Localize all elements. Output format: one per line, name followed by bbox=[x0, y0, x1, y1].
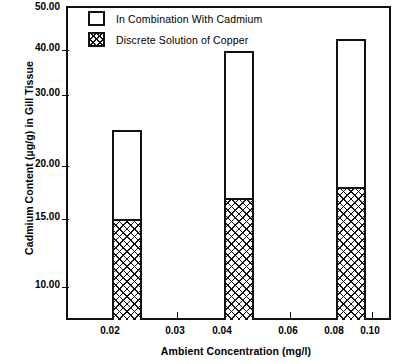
cross-hatched-square-icon bbox=[88, 32, 105, 47]
y-axis-title: Cadmium Content (µg/g) in Gill Tissue bbox=[23, 33, 35, 283]
bar-0.02 bbox=[112, 130, 142, 320]
x-tick-label-003: 0.03 bbox=[153, 326, 197, 336]
x-tick-label-002: 0.02 bbox=[88, 326, 132, 336]
y-tick-label-10: 10.00 bbox=[4, 280, 60, 290]
x-tick-006 bbox=[290, 312, 291, 319]
y-tick-20 bbox=[62, 166, 69, 167]
legend-label-0: In Combination With Cadmium bbox=[116, 13, 262, 25]
legend-label-1: Discrete Solution of Copper bbox=[116, 34, 248, 46]
x-tick-010 bbox=[372, 312, 373, 319]
x-tick-label-010: 0.10 bbox=[348, 326, 392, 336]
bar-0.02-hatched-segment bbox=[114, 219, 140, 320]
bar-0.08 bbox=[336, 39, 366, 320]
y-tick-label-40: 40.00 bbox=[4, 43, 60, 53]
y-tick-10 bbox=[62, 287, 69, 288]
legend-item-discrete-solution-of-copper: Discrete Solution of Copper bbox=[88, 29, 262, 50]
chart-legend: In Combination With Cadmium Discrete Sol… bbox=[88, 8, 262, 50]
y-tick-label-50: 50.00 bbox=[4, 2, 60, 12]
x-axis-title: Ambient Concentration (mg/l) bbox=[60, 345, 412, 357]
y-tick-30 bbox=[62, 95, 69, 96]
bar-0.04 bbox=[224, 51, 254, 320]
y-tick-label-20: 20.00 bbox=[4, 159, 60, 169]
bar-0.08-hatched-segment bbox=[338, 187, 364, 320]
plot-area bbox=[66, 6, 391, 320]
x-tick-label-006: 0.06 bbox=[266, 326, 310, 336]
y-tick-label-15: 15.00 bbox=[4, 212, 60, 222]
bar-0.04-hatched-segment bbox=[226, 198, 252, 320]
empty-square-icon bbox=[88, 11, 105, 26]
y-tick-40 bbox=[62, 50, 69, 51]
x-tick-label-004: 0.04 bbox=[200, 326, 244, 336]
y-tick-15 bbox=[62, 219, 69, 220]
y-tick-label-30: 30.00 bbox=[4, 88, 60, 98]
legend-item-in-combination-with-cadmium: In Combination With Cadmium bbox=[88, 8, 262, 29]
x-tick-003 bbox=[177, 312, 178, 319]
chart-figure: Cadmium Content (µg/g) in Gill Tissue Am… bbox=[0, 0, 412, 364]
